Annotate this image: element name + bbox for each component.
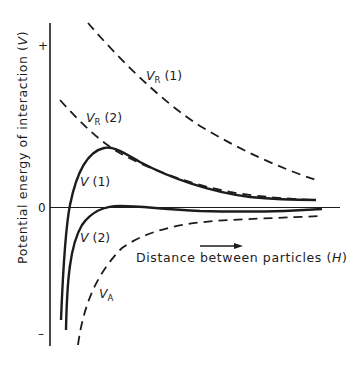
- curve-va: [78, 216, 320, 345]
- label-vr1: VR (1): [146, 68, 182, 85]
- y-axis-label: Potential energy of interaction (V): [15, 31, 30, 264]
- label-va: VA: [99, 286, 114, 303]
- y-axis-label-text: Potential energy of interaction (: [15, 45, 30, 264]
- y-tick-minus: –: [38, 327, 44, 341]
- label-v1: V (1): [80, 174, 110, 189]
- potential-energy-diagram: + 0 – Potential energy of interaction (V…: [0, 0, 362, 367]
- curve-vr1: [88, 23, 316, 180]
- x-axis-label: Distance between particles (H): [136, 250, 347, 265]
- y-axis-label-close: ): [15, 31, 30, 36]
- y-tick-zero: 0: [38, 201, 46, 215]
- y-tick-plus: +: [38, 39, 48, 53]
- x-axis-label-group: Distance between particles (H): [136, 243, 347, 265]
- label-vr2: VR (2): [86, 110, 122, 127]
- label-v2: V (2): [80, 230, 110, 245]
- right-arrow-head-icon: [234, 243, 243, 249]
